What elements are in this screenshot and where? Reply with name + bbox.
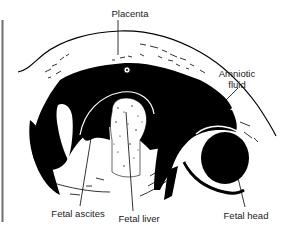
label-fetal-ascites: Fetal ascites xyxy=(51,208,104,219)
label-placenta: Placenta xyxy=(112,8,149,19)
label-fetal-head: Fetal head xyxy=(224,210,269,221)
fetal-liver-region xyxy=(111,98,147,177)
label-amniotic-line1: Amniotic xyxy=(219,68,255,79)
label-fetal-liver: Fetal liver xyxy=(118,213,159,224)
fetal-ascites-leader-line xyxy=(80,132,92,206)
placenta-marker-dot xyxy=(126,69,128,71)
ultrasound-diagram xyxy=(0,0,289,233)
fetal-head-shape xyxy=(201,132,249,184)
label-amniotic-fluid: Amniotic fluid xyxy=(219,68,255,90)
label-amniotic-line2: fluid xyxy=(219,79,255,90)
